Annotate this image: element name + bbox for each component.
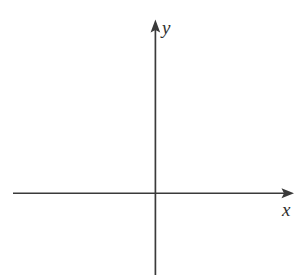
x-axis-label: x: [282, 200, 290, 219]
coordinate-axes-figure: y x: [0, 0, 305, 275]
y-axis-label: y: [162, 18, 170, 37]
axes-drawing: [0, 0, 305, 275]
